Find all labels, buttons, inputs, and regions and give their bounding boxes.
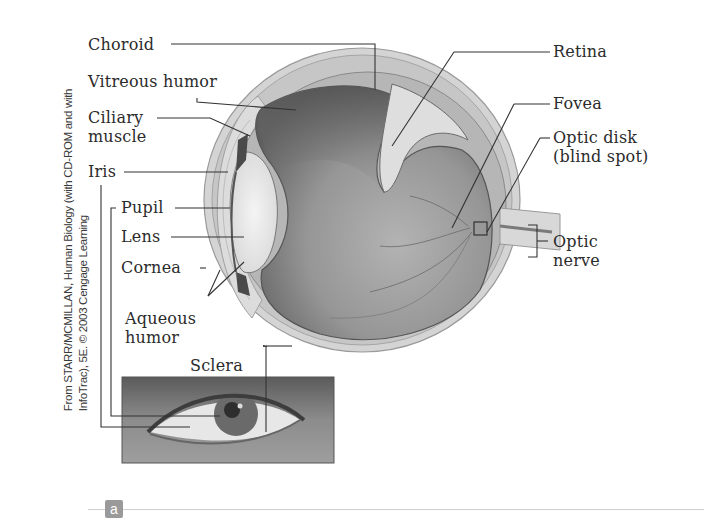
label-aqueous-humor-line2: humor (125, 328, 179, 347)
eye-photo (122, 377, 334, 463)
label-iris: Iris (88, 162, 116, 181)
label-aqueous-humor-line1: Aqueous (125, 309, 196, 328)
label-pupil: Pupil (121, 198, 164, 217)
eye-anatomy-figure: Choroid Vitreous humor Ciliary muscle Ir… (0, 0, 713, 520)
panel-divider (88, 509, 704, 510)
eyeball (204, 48, 560, 352)
panel-label-badge: a (105, 500, 123, 518)
label-retina: Retina (553, 42, 607, 61)
label-lens: Lens (121, 227, 160, 246)
label-optic-disk-line1: Optic disk (553, 128, 637, 147)
label-vitreous-humor: Vitreous humor (88, 72, 217, 91)
label-ciliary-muscle-line2: muscle (88, 127, 146, 146)
label-choroid: Choroid (88, 35, 154, 54)
label-optic-disk-line2: (blind spot) (553, 147, 649, 166)
label-sclera: Sclera (190, 356, 243, 375)
image-credit: From STARR/MCMILLAN, Human Biology (with… (61, 89, 91, 411)
label-optic-nerve-line1: Optic (553, 232, 598, 251)
label-ciliary-muscle-line1: Ciliary (88, 108, 143, 127)
label-optic-nerve-line2: nerve (553, 251, 600, 270)
label-cornea: Cornea (121, 258, 181, 277)
label-fovea: Fovea (553, 94, 602, 113)
credit-line-1: From STARR/MCMILLAN, Human Biology (with… (61, 89, 76, 411)
credit-line-2: InfoTrac), 5E. © 2003 Cengage Learning (76, 89, 91, 411)
